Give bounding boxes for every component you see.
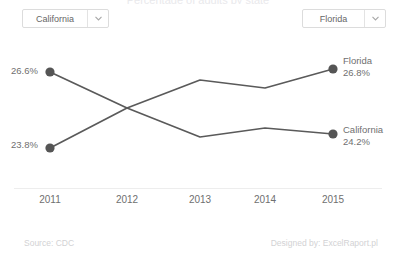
x-tick-2011: 2011 (39, 194, 61, 205)
series-line-california (50, 72, 333, 137)
x-tick-2014: 2014 (254, 194, 276, 205)
chart-card: Percentage of adults by state California… (0, 0, 396, 256)
state-select-left[interactable]: California (22, 9, 109, 28)
marker-california-end (328, 129, 337, 138)
label-florida-end-name: Florida (343, 55, 372, 67)
clipped-title: Percentage of adults by state (0, 0, 396, 4)
source-note: Source: CDC (24, 238, 74, 248)
label-florida-end: Florida 26.8% (343, 55, 372, 79)
series-line-florida (50, 69, 333, 148)
x-tick-2013: 2013 (189, 194, 211, 205)
label-florida-start-value: 23.8% (11, 139, 38, 150)
chevron-down-icon[interactable] (87, 10, 108, 27)
line-chart-plot-area (0, 34, 396, 186)
label-california-end-value: 24.2% (343, 136, 383, 148)
label-california-end-name: California (343, 124, 383, 136)
marker-florida-end (328, 64, 337, 73)
x-axis-line (14, 188, 382, 189)
state-select-left-value: California (23, 10, 87, 27)
x-tick-2012: 2012 (116, 194, 138, 205)
state-select-right-value: Florida (303, 10, 364, 27)
label-florida-end-value: 26.8% (343, 67, 372, 79)
label-california-start-value: 26.6% (11, 65, 38, 76)
credit-note: Designed by: ExcelRaport.pl (271, 238, 378, 248)
label-california-end: California 24.2% (343, 124, 383, 148)
x-tick-2015: 2015 (322, 194, 344, 205)
marker-florida-start (45, 143, 54, 152)
x-axis-ticks: 20112012201320142015 (0, 194, 396, 210)
state-select-right[interactable]: Florida (302, 9, 386, 28)
marker-california-start (45, 67, 54, 76)
chevron-down-icon[interactable] (364, 10, 385, 27)
